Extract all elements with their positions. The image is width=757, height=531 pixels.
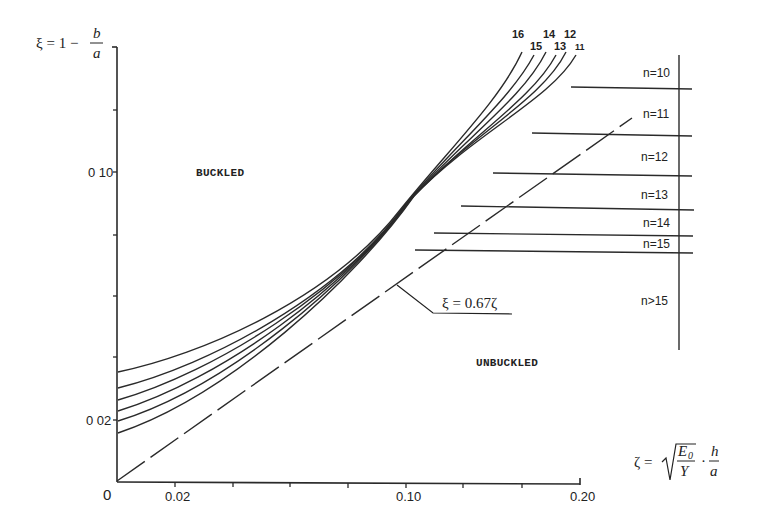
svg-text:ξ = 1 −: ξ = 1 − xyxy=(36,35,78,51)
svg-text:E: E xyxy=(677,443,687,459)
svg-text:13: 13 xyxy=(554,40,566,52)
svg-text:0: 0 xyxy=(688,450,693,461)
svg-text:·: · xyxy=(701,453,706,469)
svg-text:n>15: n>15 xyxy=(641,294,668,308)
svg-text:14: 14 xyxy=(543,28,556,40)
svg-text:n=15: n=15 xyxy=(643,237,670,251)
y-axis-title: ξ = 1 − b a xyxy=(36,25,103,61)
svg-text:ζ =: ζ = xyxy=(634,454,652,470)
curves xyxy=(118,52,576,433)
svg-text:a: a xyxy=(710,463,718,479)
region-label-buckled: BUCKLED xyxy=(196,167,244,179)
svg-text:15: 15 xyxy=(530,40,542,52)
asymptote-label: ξ = 0.67ζ xyxy=(442,295,497,311)
curve-labels: 16 15 14 13 12 11 xyxy=(512,28,585,52)
svg-text:12: 12 xyxy=(564,28,576,40)
x-tick-label-010: 0.10 xyxy=(396,489,421,504)
region-label-unbuckled: UNBUCKLED xyxy=(476,357,538,369)
svg-text:n=14: n=14 xyxy=(643,216,670,230)
x-tick-label-002: 0.02 xyxy=(165,489,190,504)
y-tick-label-002: 0 02 xyxy=(86,413,111,428)
svg-text:Y: Y xyxy=(680,463,690,479)
origin-label: 0 xyxy=(103,486,111,503)
svg-text:n=10: n=10 xyxy=(643,66,670,80)
svg-text:h: h xyxy=(711,443,719,459)
x-axis-title: ζ = E 0 Y · h a xyxy=(634,443,719,480)
curve-16 xyxy=(118,52,522,372)
y-tick-label-010: 0 10 xyxy=(88,165,113,180)
svg-text:n=12: n=12 xyxy=(641,150,668,164)
svg-text:b: b xyxy=(93,25,101,41)
n-labels: n=10 n=11 n=12 n=13 n=14 n=15 n>15 xyxy=(641,66,670,308)
svg-text:n=13: n=13 xyxy=(641,188,668,202)
svg-text:a: a xyxy=(93,45,101,61)
curve-15 xyxy=(118,55,534,388)
svg-text:16: 16 xyxy=(512,28,524,40)
x-tick-label-020: 0.20 xyxy=(570,489,595,504)
chart-canvas: 0 10 0 02 0 0.02 0.10 0.20 ξ = 1 − b a ζ… xyxy=(0,0,757,531)
svg-text:n=11: n=11 xyxy=(643,107,669,121)
curve-14 xyxy=(118,52,546,400)
svg-text:11: 11 xyxy=(575,42,585,52)
asymptote-line xyxy=(117,118,632,481)
